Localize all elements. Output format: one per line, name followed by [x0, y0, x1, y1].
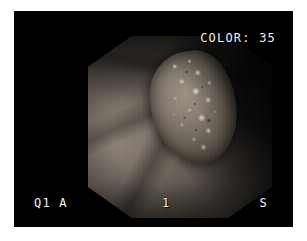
endoscopy-video-frame: COLOR: 35 Q1 A 1 S	[14, 11, 293, 227]
color-setting-overlay: COLOR: 35	[200, 32, 276, 44]
endoscope-vignette	[88, 36, 272, 218]
side-marker-overlay: S	[260, 197, 268, 209]
frame-index-overlay: 1	[162, 197, 170, 209]
quadrant-overlay: Q1 A	[34, 197, 68, 209]
screenshot-page: COLOR: 35 Q1 A 1 S	[0, 0, 307, 241]
endoscope-image-aperture	[88, 36, 272, 218]
